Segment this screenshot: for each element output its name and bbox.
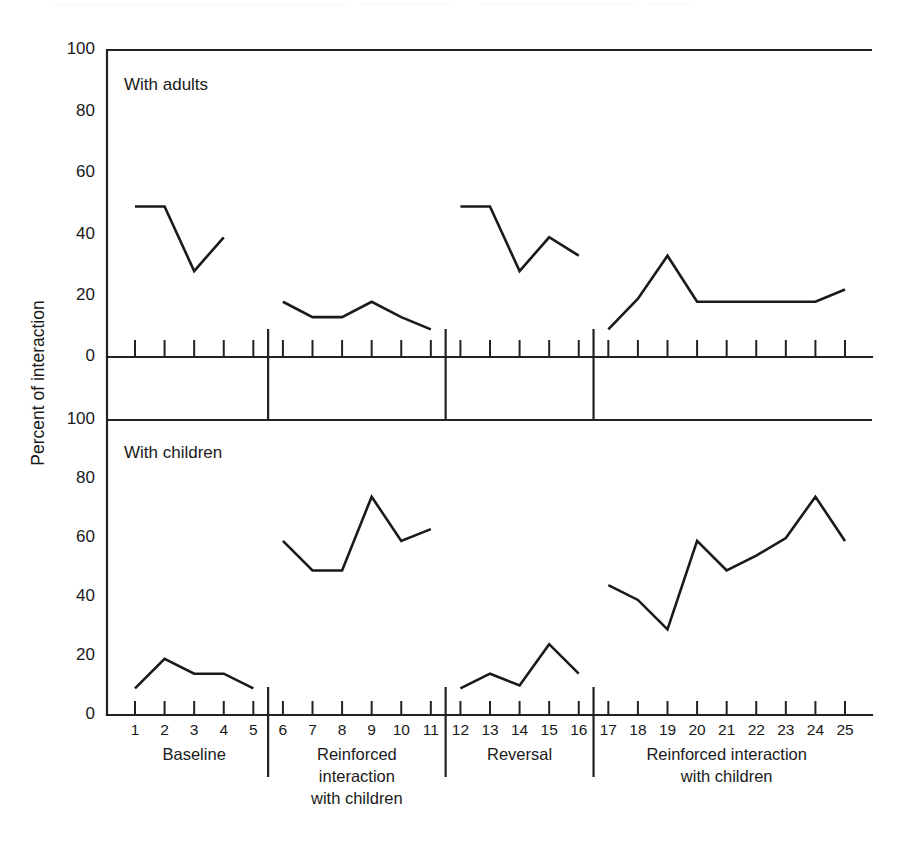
x-tick-label-4: 4 [219, 721, 228, 738]
series-segment-adults-1 [135, 207, 224, 271]
x-tick-label-1: 1 [131, 721, 140, 738]
scan-artifact [650, 2, 690, 5]
y-tick-label-adults-100: 100 [67, 39, 95, 58]
figure-canvas: Percent of interaction With adults 02040… [0, 0, 909, 843]
phase-label-4-line-1: Reinforced interaction [646, 745, 807, 763]
phase-label-2-line-2: interaction [319, 767, 395, 785]
y-tick-label-children-60: 60 [76, 527, 95, 546]
y-tick-label-adults-80: 80 [76, 101, 95, 120]
y-tick-label-children-80: 80 [76, 468, 95, 487]
series-segment-adults-2 [283, 302, 431, 330]
x-tick-label-22: 22 [748, 721, 765, 738]
series-segment-children-3 [460, 644, 578, 688]
x-tick-label-6: 6 [279, 721, 288, 738]
phase-label-4-line-2: with children [680, 767, 773, 785]
y-tick-label-adults-20: 20 [76, 285, 95, 304]
x-tick-label-12: 12 [452, 721, 469, 738]
y-tick-label-children-0: 0 [86, 704, 95, 723]
series-segment-adults-3 [460, 207, 578, 271]
y-tick-label-adults-0: 0 [86, 346, 95, 365]
scan-artifact [480, 3, 635, 6]
panel-with-children: With children 020406080100 [67, 409, 845, 723]
phase-label-2-line-1: Reinforced [317, 745, 397, 763]
y-tick-labels-children: 020406080100 [67, 409, 95, 723]
x-tick-label-10: 10 [393, 721, 411, 738]
x-tick-label-8: 8 [338, 721, 347, 738]
x-tick-label-18: 18 [629, 721, 646, 738]
x-tick-label-9: 9 [367, 721, 376, 738]
series-with-children [135, 497, 845, 689]
x-tick-label-13: 13 [481, 721, 498, 738]
x-axis-tick-labels: 1234567891011121314151617181920212223242… [131, 721, 854, 738]
phase-label-3-line-1: Reversal [487, 745, 552, 763]
chart-frame [107, 50, 872, 715]
scan-artifact [55, 3, 345, 7]
x-tick-label-23: 23 [777, 721, 794, 738]
series-with-adults [135, 207, 845, 330]
series-segment-children-4 [608, 497, 845, 630]
y-tick-label-children-40: 40 [76, 586, 95, 605]
y-tick-label-children-100: 100 [67, 409, 95, 428]
x-tick-label-11: 11 [423, 721, 439, 738]
x-tick-label-5: 5 [249, 721, 258, 738]
y-axis-title: Percent of interaction [28, 300, 48, 465]
x-tick-label-19: 19 [659, 721, 676, 738]
x-tick-label-21: 21 [718, 721, 735, 738]
y-tick-label-adults-40: 40 [76, 224, 95, 243]
panel-title-adults: With adults [124, 75, 208, 94]
x-tick-label-14: 14 [511, 721, 529, 738]
panel-with-adults: With adults 020406080100 [67, 39, 845, 365]
series-segment-children-2 [283, 497, 431, 571]
phase-label-2-line-3: with children [310, 789, 403, 807]
series-segment-children-1 [135, 659, 253, 689]
x-tick-label-16: 16 [570, 721, 587, 738]
x-tick-label-20: 20 [688, 721, 706, 738]
x-axis-ticks [135, 340, 845, 715]
x-tick-label-17: 17 [600, 721, 617, 738]
interaction-line-chart: Percent of interaction With adults 02040… [0, 0, 909, 843]
x-tick-label-24: 24 [807, 721, 825, 738]
phase-label-1-line-1: Baseline [163, 745, 226, 763]
x-tick-label-25: 25 [836, 721, 853, 738]
y-tick-label-adults-60: 60 [76, 162, 95, 181]
panel-title-children: With children [124, 443, 222, 462]
phase-labels: BaselineReinforcedinteractionwith childr… [163, 745, 807, 807]
y-tick-label-children-20: 20 [76, 645, 95, 664]
x-tick-label-15: 15 [541, 721, 558, 738]
x-tick-label-2: 2 [160, 721, 169, 738]
x-tick-label-3: 3 [190, 721, 199, 738]
x-tick-label-7: 7 [308, 721, 317, 738]
y-tick-labels-adults: 020406080100 [67, 39, 95, 365]
scan-artifact [360, 2, 450, 6]
series-segment-adults-4 [608, 256, 845, 330]
